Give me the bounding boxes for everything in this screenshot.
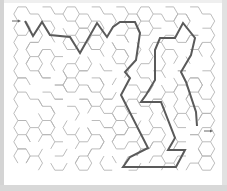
solution-path (25, 21, 197, 167)
start-arrow-icon (12, 20, 21, 23)
maze-board (0, 0, 227, 191)
maze-frame (0, 0, 227, 191)
maze-walls (14, 7, 215, 170)
